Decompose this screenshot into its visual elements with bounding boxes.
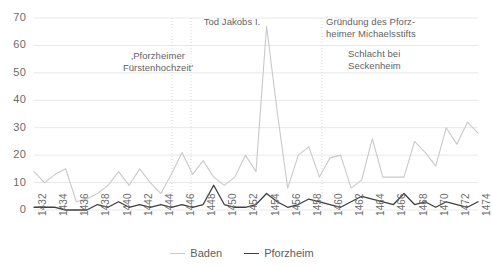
- legend-entry-pforzheim[interactable]: Pforzheim: [244, 248, 314, 259]
- gridlines: [34, 18, 478, 210]
- x-tick-label: 1452: [249, 193, 259, 216]
- annotation-pforzheimer-fuerstenhochzeit: ‚Pforzheimer Fürstenhochzeit': [118, 50, 198, 74]
- x-tick-label: 1440: [123, 193, 133, 216]
- x-tick-label: 1450: [228, 193, 238, 216]
- x-tick-label: 1462: [355, 193, 365, 216]
- annotation-schlacht-seckenheim: Schlacht bei Seckenheim: [348, 48, 428, 72]
- legend-label: Pforzheim: [264, 248, 314, 259]
- legend-label: Baden: [190, 248, 222, 259]
- legend-swatch-baden: [170, 253, 185, 254]
- x-tick-label: 1472: [461, 193, 471, 216]
- legend-swatch-pforzheim: [244, 253, 259, 254]
- x-tick-label: 1436: [80, 193, 90, 216]
- x-tick-label: 1432: [38, 193, 48, 216]
- x-tick-label: 1446: [186, 193, 196, 216]
- x-tick-label: 1464: [376, 193, 386, 216]
- annotation-marker-lines: [172, 18, 322, 210]
- x-tick-label: 1454: [271, 193, 281, 216]
- x-tick-label: 1468: [419, 193, 429, 216]
- annotation-gruendung-michaelsstift: Gründung des Pforz- heimer Michaelsstift…: [326, 16, 426, 40]
- x-tick-label: 1438: [101, 193, 111, 216]
- x-tick-label: 1474: [482, 193, 492, 216]
- legend-entry-baden[interactable]: Baden: [170, 248, 222, 259]
- x-tick-label: 1458: [313, 193, 323, 216]
- x-tick-label: 1460: [334, 193, 344, 216]
- x-tick-label: 1448: [207, 193, 217, 216]
- x-tick-label: 1456: [292, 193, 302, 216]
- x-tick-label: 1466: [397, 193, 407, 216]
- x-tick-label: 1442: [144, 193, 154, 216]
- x-tick-label: 1470: [440, 193, 450, 216]
- chart-legend: BadenPforzheim: [0, 248, 484, 259]
- annotation-tod-jakobs: Tod Jakobs I.: [196, 16, 268, 28]
- x-tick-label: 1434: [59, 193, 69, 216]
- x-tick-label: 1444: [165, 193, 175, 216]
